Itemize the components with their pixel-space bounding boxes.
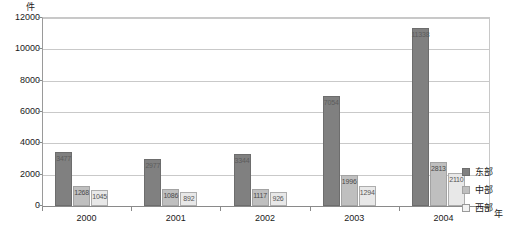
bars-layer: 3477126810452977108689233441117926705419… <box>43 18 489 206</box>
bar-中部-2001[interactable]: 1086 <box>162 189 179 206</box>
y-axis-tick-label: 6000 <box>4 106 40 116</box>
bar-value-label: 3344 <box>235 157 250 165</box>
x-axis-tick-label: 2001 <box>166 213 186 224</box>
bar-value-label: 1996 <box>342 178 357 186</box>
x-axis-tick-mark <box>42 207 43 211</box>
bar-group: 347712681045 <box>55 18 108 206</box>
x-axis-tick-mark <box>220 207 221 211</box>
legend-swatch-icon <box>462 168 470 176</box>
legend-label: 西部 <box>475 203 493 214</box>
bar-东部-2001[interactable]: 2977 <box>144 159 161 206</box>
x-axis-tick-label: 2002 <box>255 213 275 224</box>
x-axis-tick-label: 2000 <box>77 213 97 224</box>
bar-chart: 件 年 020004000600080001000012000 34771268… <box>0 0 514 250</box>
bar-东部-2002[interactable]: 3344 <box>234 154 251 206</box>
y-axis-tick-label: 8000 <box>4 75 40 85</box>
bar-西部-2000[interactable]: 1045 <box>91 190 108 206</box>
bar-value-label: 892 <box>183 195 194 203</box>
legend-item-西部[interactable]: 西部 <box>462 199 514 217</box>
bar-value-label: 2813 <box>431 165 446 173</box>
bar-group: 1133828132110 <box>412 18 465 206</box>
x-axis-tick-mark <box>131 207 132 211</box>
y-axis-tick-label: 2000 <box>4 169 40 179</box>
legend-item-东部[interactable]: 东部 <box>462 163 514 181</box>
bar-value-label: 1086 <box>163 192 178 200</box>
bar-东部-2004[interactable]: 11338 <box>412 28 429 206</box>
x-axis-tick-mark <box>399 207 400 211</box>
x-axis-tick-label: 2003 <box>344 213 364 224</box>
bar-东部-2003[interactable]: 7054 <box>323 96 340 207</box>
bar-中部-2003[interactable]: 1996 <box>341 175 358 206</box>
bar-group: 33441117926 <box>234 18 287 206</box>
bar-西部-2001[interactable]: 892 <box>180 192 197 206</box>
legend-label: 东部 <box>475 167 493 178</box>
bar-中部-2000[interactable]: 1268 <box>73 186 90 206</box>
bar-value-label: 1294 <box>360 189 375 197</box>
bar-value-label: 1268 <box>74 189 89 197</box>
legend-swatch-icon <box>462 186 470 194</box>
bar-西部-2003[interactable]: 1294 <box>359 186 376 206</box>
bar-group: 705419961294 <box>323 18 376 206</box>
bar-中部-2004[interactable]: 2813 <box>430 162 447 206</box>
legend-label: 中部 <box>475 185 493 196</box>
bar-西部-2002[interactable]: 926 <box>270 192 287 207</box>
x-axis-tick-label: 2004 <box>433 213 453 224</box>
y-axis-ticks: 020004000600080001000012000 <box>0 17 40 207</box>
bar-东部-2000[interactable]: 3477 <box>55 152 72 206</box>
bar-value-label: 11338 <box>411 31 429 39</box>
bar-中部-2002[interactable]: 1117 <box>252 189 269 206</box>
chart-legend: 东部中部西部 <box>462 163 514 217</box>
x-axis-tick-mark <box>310 207 311 211</box>
x-axis-ticks: 20002001200220032004 <box>42 207 490 233</box>
bar-value-label: 926 <box>272 195 283 203</box>
bar-value-label: 1117 <box>253 192 267 200</box>
bar-value-label: 7054 <box>324 99 339 107</box>
y-axis-tick-label: 4000 <box>4 137 40 147</box>
legend-swatch-icon <box>462 204 470 212</box>
bar-group: 29771086892 <box>144 18 197 206</box>
y-axis-tick-label: 0 <box>4 200 40 210</box>
bar-value-label: 3477 <box>56 155 71 163</box>
bar-value-label: 1045 <box>92 193 107 201</box>
legend-item-中部[interactable]: 中部 <box>462 181 514 199</box>
y-axis-tick-label: 12000 <box>4 12 40 22</box>
y-axis-tick-label: 10000 <box>4 43 40 53</box>
bar-value-label: 2977 <box>145 162 160 170</box>
